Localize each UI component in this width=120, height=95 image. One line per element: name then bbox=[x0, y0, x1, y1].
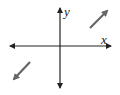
y-axis-label: y bbox=[64, 5, 70, 18]
coordinate-diagram: y x bbox=[0, 0, 120, 95]
upper-right-arrow-icon bbox=[90, 11, 107, 28]
x-axis-label: x bbox=[101, 33, 107, 46]
lower-left-arrow-icon bbox=[14, 62, 30, 79]
axes-and-vectors bbox=[0, 0, 120, 95]
